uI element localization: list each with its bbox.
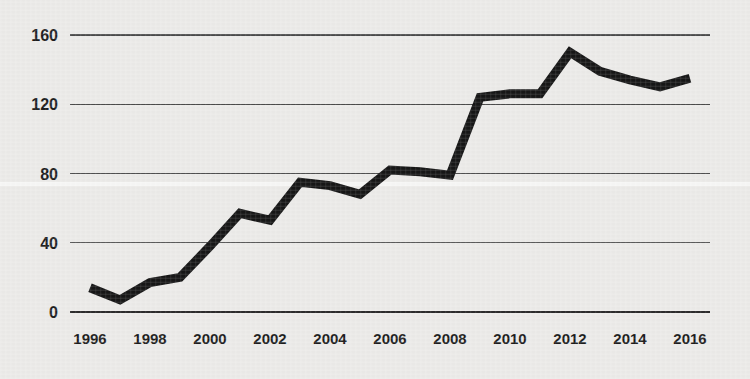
x-tick-label-2004: 2004 xyxy=(313,330,347,347)
x-axis-tick-labels: 1996199820002002200420062008201020122014… xyxy=(73,330,706,347)
data-series-line xyxy=(90,52,690,300)
x-tick-label-1996: 1996 xyxy=(73,330,106,347)
y-tick-label-160: 160 xyxy=(31,27,58,44)
x-tick-label-2000: 2000 xyxy=(193,330,226,347)
x-tick-label-2006: 2006 xyxy=(373,330,406,347)
line-chart: 04080120160 1996199820002002200420062008… xyxy=(0,0,750,379)
x-tick-label-2002: 2002 xyxy=(253,330,286,347)
x-tick-label-2010: 2010 xyxy=(493,330,526,347)
y-tick-label-0: 0 xyxy=(49,304,58,321)
chart-plot-area: 04080120160 1996199820002002200420062008… xyxy=(0,0,750,379)
y-axis-tick-labels: 04080120160 xyxy=(31,27,58,321)
y-tick-label-120: 120 xyxy=(31,96,58,113)
x-tick-label-2008: 2008 xyxy=(433,330,466,347)
x-tick-label-2014: 2014 xyxy=(613,330,647,347)
y-tick-label-80: 80 xyxy=(40,166,58,183)
x-tick-label-1998: 1998 xyxy=(133,330,166,347)
x-tick-label-2012: 2012 xyxy=(553,330,586,347)
x-tick-label-2016: 2016 xyxy=(673,330,706,347)
y-tick-label-40: 40 xyxy=(40,235,58,252)
